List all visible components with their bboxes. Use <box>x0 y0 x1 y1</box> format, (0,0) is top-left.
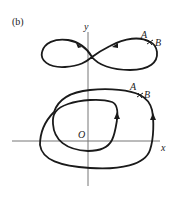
direction-arrow-icon <box>114 112 120 119</box>
origin-label: O <box>78 129 85 140</box>
x-axis-label: x <box>160 142 166 153</box>
upper-point-b-label: B <box>155 37 161 48</box>
lower-point-b-label: B <box>144 89 150 100</box>
panel-label: (b) <box>12 16 24 28</box>
lower-point-a-label: A <box>129 81 137 92</box>
spiral-curve <box>40 89 156 168</box>
figure-eight-curve <box>42 39 157 70</box>
y-axis-label: y <box>83 21 89 32</box>
direction-arrow-icon <box>150 113 156 120</box>
upper-point-a-label: A <box>140 29 148 40</box>
phase-diagram: (b) y x O A B A B <box>0 0 176 199</box>
